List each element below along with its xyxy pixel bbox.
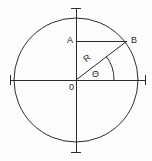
label-origin: 0 [69, 83, 74, 92]
label-angle-theta: Θ [92, 70, 99, 79]
label-point-b: B [131, 36, 137, 45]
segment-ob-radius [76, 41, 127, 80]
diagram-canvas [0, 0, 152, 161]
circle-diagram-figure: A B 0 R Θ [0, 0, 152, 161]
angle-arc [106, 56, 114, 80]
label-point-a: A [67, 36, 73, 45]
